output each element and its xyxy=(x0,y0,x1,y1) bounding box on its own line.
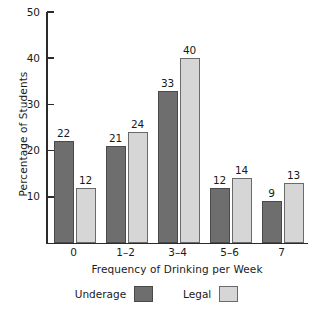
bar-value-label: 12 xyxy=(70,175,102,186)
bar-value-label: 14 xyxy=(226,165,258,176)
y-axis-tick-label: 10 xyxy=(16,191,40,202)
bar-underage-0 xyxy=(54,141,74,243)
plot-area: 2212212433401214913 xyxy=(48,12,308,243)
y-axis-tick-label: 50 xyxy=(16,7,40,18)
bar-underage-3 xyxy=(210,188,230,243)
bar-chart: Percentage of Students 1020304050 221221… xyxy=(0,0,313,313)
bar-value-label: 22 xyxy=(48,128,80,139)
underage-swatch-icon xyxy=(134,286,153,302)
bar-value-label: 40 xyxy=(174,45,206,56)
bar-value-label: 13 xyxy=(278,170,310,181)
bar-legal-3 xyxy=(232,178,252,243)
bar-legal-2 xyxy=(180,58,200,243)
legal-swatch-icon xyxy=(219,286,238,302)
legend-label-underage: Underage xyxy=(75,288,126,300)
y-axis-tick-label: 40 xyxy=(16,53,40,64)
x-axis-tick-label: 7 xyxy=(246,247,313,258)
bar-underage-4 xyxy=(262,201,282,243)
bar-legal-4 xyxy=(284,183,304,243)
bar-underage-2 xyxy=(158,91,178,243)
bar-legal-0 xyxy=(76,188,96,243)
bar-legal-1 xyxy=(128,132,148,243)
y-axis-tick-label: 20 xyxy=(16,145,40,156)
legend-entry-legal: Legal xyxy=(183,286,238,302)
bar-underage-1 xyxy=(106,146,126,243)
legend-entry-underage: Underage xyxy=(75,286,153,302)
x-axis-title: Frequency of Drinking per Week xyxy=(46,263,308,275)
bar-value-label: 24 xyxy=(122,119,154,130)
y-axis-tick-label: 30 xyxy=(16,99,40,110)
chart-legend: Underage Legal xyxy=(0,286,313,302)
legend-label-legal: Legal xyxy=(183,288,211,300)
